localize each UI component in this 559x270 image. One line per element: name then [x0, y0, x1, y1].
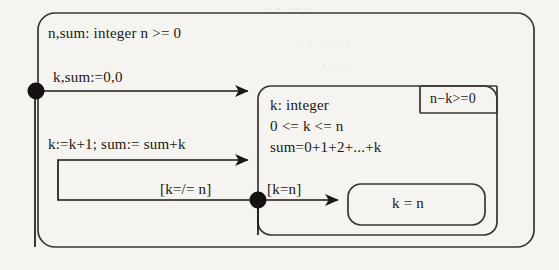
inner-state-invariant-line-2: 0 <= k <= n	[270, 119, 344, 134]
diagram-canvas: · · · · · · · · · · · · · · ·	[0, 0, 559, 270]
junction-dot	[250, 192, 267, 209]
outer-state-declaration: n,sum: integer n >= 0	[48, 26, 181, 41]
inner-state-invariant-line-3: sum=0+1+2+...+k	[270, 140, 382, 155]
start-dot	[28, 83, 45, 100]
loop-back-transition-label: k:=k+1; sum:= sum+k	[48, 137, 186, 152]
final-state-label: k = n	[392, 196, 424, 211]
initial-transition-label: k,sum:=0,0	[53, 70, 123, 85]
loop-back-transition-line	[58, 160, 258, 200]
guard-equal-label: [k=n]	[267, 182, 301, 197]
inner-state-invariant-line-1: k: integer	[270, 98, 329, 113]
guard-not-equal-label: [k=/= n]	[160, 182, 211, 197]
corner-annotation-label: n−k>=0	[430, 92, 476, 106]
